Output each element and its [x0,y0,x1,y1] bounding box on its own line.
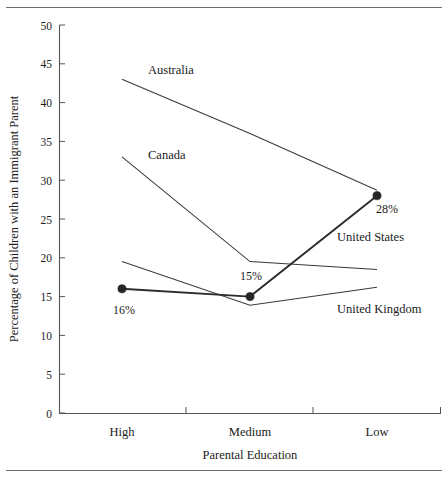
y-axis-ticks [60,25,66,413]
y-axis-title: Percentage of Children with an Immigrant… [7,95,21,342]
y-axis-tick-labels: 50 45 40 35 30 25 20 15 10 5 0 [41,20,53,420]
series-label-united-states: United States [337,230,404,244]
y-tick-label-50: 50 [41,20,53,32]
y-tick-label-25: 25 [41,214,53,226]
x-axis-ticks [186,407,441,414]
x-axis-category-labels: High Medium Low [110,425,389,439]
y-tick-label-15: 15 [41,291,53,303]
x-axis-title: Parental Education [203,448,299,462]
x-cat-label-high: High [110,425,136,439]
data-point-marker-low [373,192,381,200]
y-tick-label-0: 0 [46,408,52,420]
data-point-marker-high [118,285,126,293]
series-line-australia [122,79,377,190]
x-cat-label-low: Low [366,425,389,439]
y-tick-label-20: 20 [41,252,53,264]
series-label-canada: Canada [148,148,186,162]
series-markers-united-states [118,192,381,301]
y-tick-label-35: 35 [41,136,53,148]
line-chart-canvas: 50 45 40 35 30 25 20 15 10 5 0 High Medi… [0,0,448,478]
y-tick-label-40: 40 [41,97,53,109]
plot-axes [60,25,442,414]
data-value-label-low: 28% [376,202,398,216]
x-cat-label-medium: Medium [229,425,272,439]
data-point-marker-medium [246,293,254,301]
series-label-australia: Australia [148,63,194,77]
data-value-label-high: 16% [113,303,135,317]
chart-figure: 50 45 40 35 30 25 20 15 10 5 0 High Medi… [0,0,448,478]
series-label-united-kingdom: United Kingdom [337,302,422,316]
y-tick-label-30: 30 [41,175,53,187]
y-tick-label-10: 10 [41,330,53,342]
y-tick-label-5: 5 [46,369,52,381]
y-tick-label-45: 45 [41,58,53,70]
data-value-label-medium: 15% [240,269,262,283]
series-line-canada [122,157,377,270]
